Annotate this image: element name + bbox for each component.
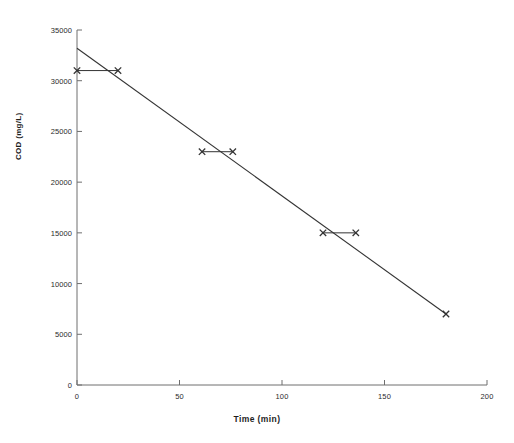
y-tick-label: 5000: [55, 330, 72, 339]
data-point-marker: [443, 311, 449, 317]
chart-figure: 05000100001500020000250003000035000 0501…: [0, 0, 514, 443]
trend-line: [77, 48, 446, 314]
y-tick-label: 15000: [51, 228, 72, 237]
x-tick-label: 150: [378, 392, 391, 401]
y-tick-label: 30000: [51, 76, 72, 85]
y-axis-ticks: [77, 30, 82, 385]
axis-lines: [77, 30, 487, 385]
plot-canvas: [0, 0, 514, 443]
trend-line-segment: [77, 48, 446, 314]
point-connectors: [77, 71, 356, 233]
y-tick-label: 10000: [51, 279, 72, 288]
y-tick-label: 0: [68, 381, 72, 390]
x-axis-ticks: [77, 380, 487, 385]
data-markers: [74, 67, 449, 317]
x-tick-label: 0: [75, 392, 79, 401]
x-tick-label: 200: [481, 392, 494, 401]
y-axis-title: COD (mg/L): [14, 50, 23, 160]
y-tick-label: 35000: [51, 26, 72, 35]
x-tick-label: 100: [276, 392, 289, 401]
x-tick-label: 50: [175, 392, 184, 401]
y-tick-label: 25000: [51, 127, 72, 136]
y-tick-label: 20000: [51, 178, 72, 187]
x-axis-title: Time (min): [0, 414, 514, 424]
